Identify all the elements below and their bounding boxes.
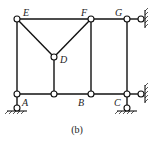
- figure-caption: (b): [71, 124, 83, 136]
- member-F-D: [54, 19, 91, 57]
- joint-F: [88, 16, 94, 22]
- label-G: G: [115, 7, 122, 18]
- members: [17, 19, 127, 94]
- joints: [14, 16, 130, 97]
- member-E-D: [17, 19, 54, 57]
- joint-E: [14, 16, 20, 22]
- label-C: C: [114, 97, 121, 108]
- label-D: D: [59, 54, 68, 65]
- joint-A: [14, 91, 20, 97]
- label-B: B: [78, 97, 84, 108]
- label-A: A: [21, 97, 29, 108]
- joint-G: [124, 16, 130, 22]
- joint-mid: [51, 91, 57, 97]
- joint-C: [124, 91, 130, 97]
- label-E: E: [22, 7, 29, 18]
- joint-D: [51, 54, 57, 60]
- truss-diagram: E F G D A B C (b): [0, 0, 154, 144]
- label-F: F: [80, 7, 88, 18]
- joint-B: [88, 91, 94, 97]
